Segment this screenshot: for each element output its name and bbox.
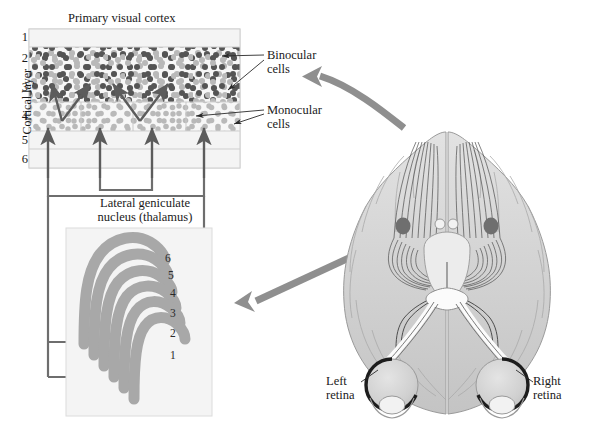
label-monocular-cells: Monocular cells [267,103,322,131]
lgn-title-line1: Lateral geniculate [80,196,210,210]
cortical-layer-6: 6 [14,152,28,167]
cortical-layer-3: 3 [14,80,28,95]
right-retina-line1: Right [533,374,561,388]
binocular-cells-line2: cells [267,62,316,76]
left-retina-line2: retina [326,388,354,402]
mammillary-body-left [435,219,445,229]
page-title-lgn: Lateral geniculate nucleus (thalamus) [80,196,210,224]
label-left-retina: Left retina [326,374,354,402]
visual-pathway-figure: Primary visual cortex Cortical layer 1 2… [0,0,591,434]
binocular-cells-line1: Binocular [267,48,316,62]
left-eye [366,359,418,418]
lgn-layer-2: 2 [170,327,176,339]
cortex-panel [29,29,240,168]
lgn-left-marker [396,218,411,235]
lgn-layer-6: 6 [165,252,171,264]
left-retina-line1: Left [326,374,354,388]
monocular-cells-line1: Monocular [267,103,322,117]
axis-label-cortical-layer: Cortical layer [21,60,34,144]
page-title-cortex: Primary visual cortex [68,11,176,25]
right-lens [489,396,515,414]
right-eye [476,359,528,418]
mammillary-body-right [448,219,458,229]
cortical-layer-2: 2 [14,51,28,66]
lgn-panel [66,228,212,416]
label-right-retina: Right retina [533,374,561,402]
label-binocular-cells: Binocular cells [267,48,316,76]
monocular-cells-line2: cells [267,117,322,131]
cortical-layer-5: 5 [14,133,28,148]
right-retina-line2: retina [533,388,561,402]
lgn-right-marker [484,218,499,235]
cortical-layer-1: 1 [14,30,28,45]
lgn-layer-3: 3 [170,307,176,319]
brain-illustration [344,132,551,418]
lgn-layer-1: 1 [170,349,176,361]
lgn-title-line2: nucleus (thalamus) [80,210,210,224]
left-lens [379,396,405,414]
lgn-layer-4: 4 [170,287,176,299]
layer23-cells [29,47,240,102]
lgn-layer-5: 5 [168,269,174,281]
cortical-layer-4: 4 [14,109,28,124]
